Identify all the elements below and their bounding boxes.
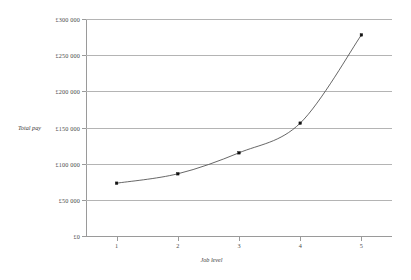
data-point-marker [177,172,180,175]
data-point-marker [115,182,118,185]
data-point-marker [360,34,363,37]
data-point-marker [299,122,302,125]
chart-container: £0£50 000£100 000£150 000£200 000£250 00… [0,0,411,280]
series-layer [0,0,411,280]
series-line [117,35,362,183]
data-point-marker [238,152,241,155]
